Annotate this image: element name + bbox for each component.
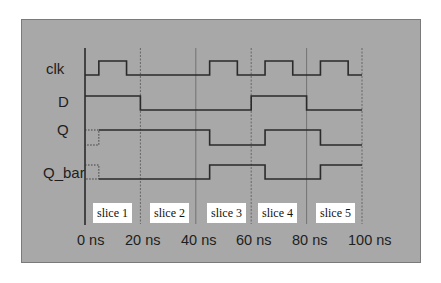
tick-100ns: 100 ns — [348, 232, 392, 248]
unknown-state-q-bar — [85, 165, 99, 179]
slice-4-box: slice 4 — [258, 203, 297, 223]
tick-80ns: 80 ns — [292, 232, 327, 248]
signal-label-q: Q — [57, 121, 69, 138]
slice-3-box: slice 3 — [207, 203, 246, 223]
signal-label-d: D — [58, 93, 69, 110]
waveform-clk — [85, 61, 362, 75]
tick-40ns: 40 ns — [181, 232, 216, 248]
waveform-q — [99, 130, 362, 145]
signal-label-q-bar: Q_bar — [43, 164, 85, 181]
waveform-q-bar — [99, 165, 362, 179]
signal-label-clk: clk — [46, 60, 64, 77]
unknown-state-q — [85, 130, 99, 145]
tick-0ns: 0 ns — [77, 232, 104, 248]
waveform-d — [85, 96, 362, 110]
slice-5-box: slice 5 — [316, 203, 355, 223]
slice-1-box: slice 1 — [93, 203, 132, 223]
slice-2-box: slice 2 — [150, 203, 189, 223]
signal-traces — [85, 61, 362, 179]
tick-20ns: 20 ns — [125, 232, 160, 248]
tick-60ns: 60 ns — [236, 232, 271, 248]
